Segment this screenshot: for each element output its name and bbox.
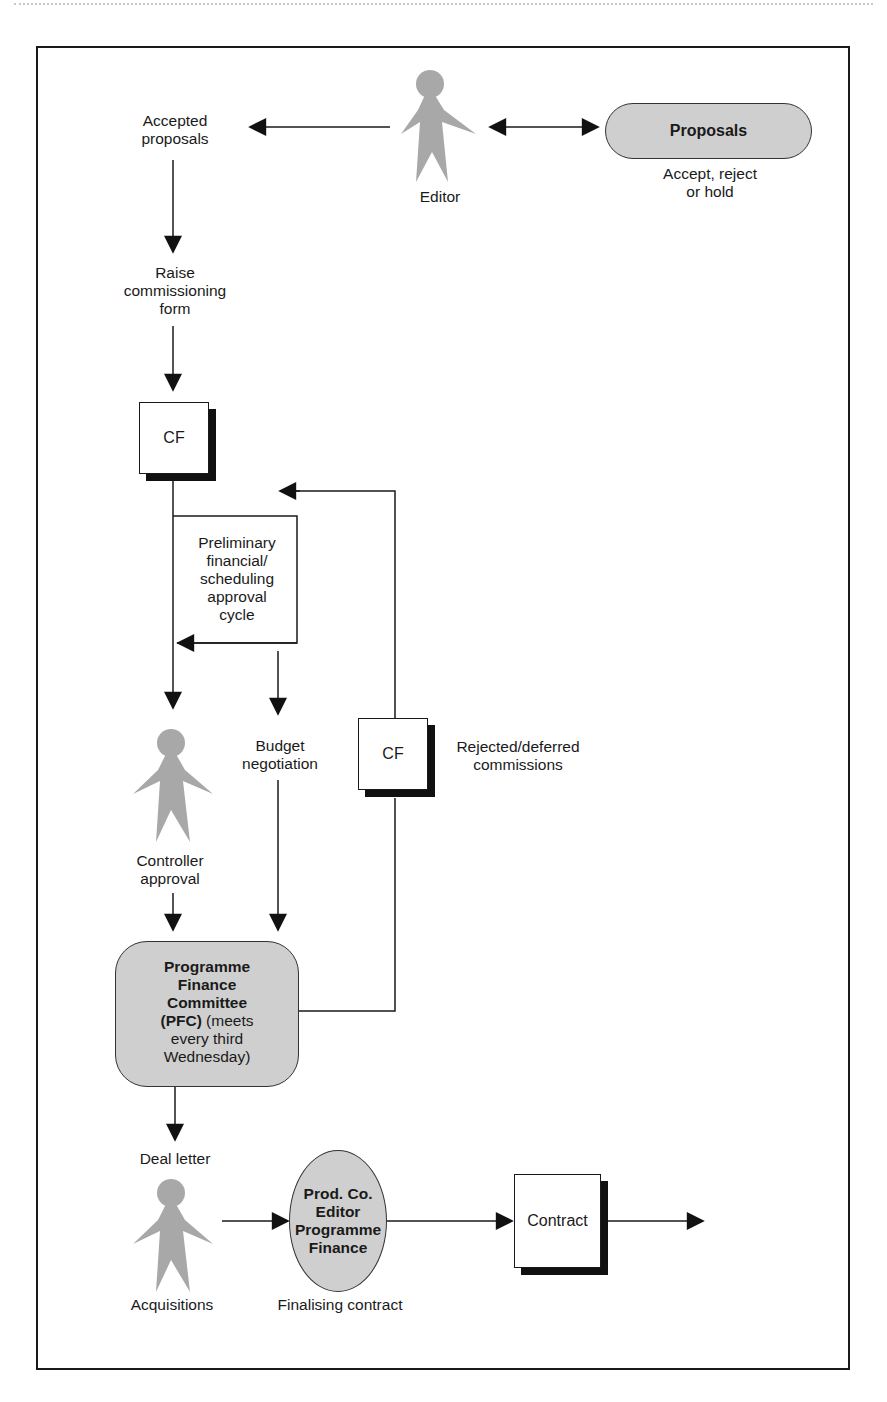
proposals-note: Accept, reject or hold — [640, 165, 780, 201]
contract-node[interactable]: Contract — [514, 1174, 601, 1268]
deal-letter-label: Deal letter — [115, 1150, 235, 1168]
preliminary-cycle-label: Preliminary financial/ scheduling approv… — [180, 534, 294, 624]
controller-approval-label: Controller approval — [120, 852, 220, 888]
reject-return-lower — [298, 798, 395, 1011]
rejected-deferred-label: Rejected/deferred commissions — [438, 738, 598, 774]
controller-figure-icon — [133, 729, 213, 842]
editor-label: Editor — [400, 188, 480, 206]
pfc-node[interactable]: Programme Finance Committee (PFC) (meets… — [115, 941, 299, 1087]
acquisitions-figure-icon — [133, 1179, 213, 1292]
accepted-proposals-label: Accepted proposals — [110, 112, 240, 148]
prod-co-node[interactable]: Prod. Co. Editor Programme Finance — [289, 1150, 387, 1292]
cf-form-node-1[interactable]: CF — [139, 402, 209, 474]
budget-negotiation-label: Budget negotiation — [228, 737, 332, 773]
finalising-contract-label: Finalising contract — [260, 1296, 420, 1314]
proposals-node[interactable]: Proposals — [605, 103, 812, 159]
acquisitions-label: Acquisitions — [110, 1296, 234, 1314]
flow-connectors — [0, 0, 887, 1402]
raise-form-label: Raise commissioning form — [105, 264, 245, 318]
editor-figure-icon — [401, 70, 476, 182]
cf-form-node-2[interactable]: CF — [358, 718, 428, 790]
